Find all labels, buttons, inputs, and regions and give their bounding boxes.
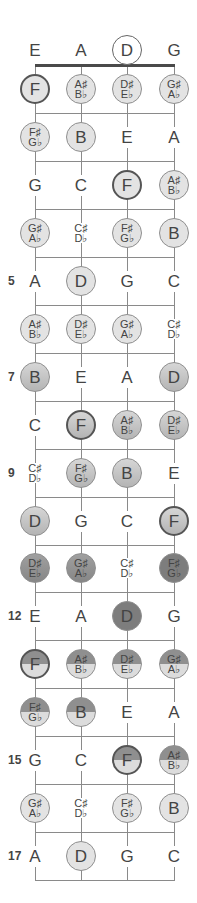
note-marker: A♯B♭ [112,410,142,440]
flat-name: E♭ [29,568,41,578]
note-name-enharmonic: F♯G♭ [28,702,42,722]
note-name: F [76,415,86,436]
note-marker: D [66,841,96,871]
fret-line [35,209,175,210]
note-name: E [29,40,40,61]
note-label: G [66,506,96,536]
note-name: C [121,511,133,532]
fret-number: 5 [8,274,15,288]
note-name: B [168,223,179,244]
note-label: A [66,35,96,65]
note-name: G [167,40,180,61]
nut-line [35,64,175,67]
note-name: C [75,750,87,771]
fret-line [35,305,175,306]
note-name-enharmonic: C♯D♭ [28,463,41,483]
note-name: C [168,846,180,867]
note-name: D [121,606,133,627]
flat-name: E♭ [168,425,180,435]
flat-name: G♭ [74,473,88,483]
note-name: A [121,367,132,388]
note-name: C [168,271,180,292]
note-label: A [66,601,96,631]
note-name: E [121,127,132,148]
note-marker: D [112,601,142,631]
note-name: A [29,271,40,292]
note-marker: G♯A♭ [159,649,189,679]
flat-name: A♭ [29,233,41,243]
note-label: G [159,601,189,631]
note-name-enharmonic: C♯D♭ [167,319,180,339]
note-marker: F [112,170,142,200]
note-label: A [20,266,50,296]
note-label: G [20,170,50,200]
note-marker: D♯E♭ [159,410,189,440]
flat-name: A♭ [168,664,180,674]
note-marker: G♯A♭ [112,314,142,344]
fret-number: 15 [8,753,21,767]
fret-line [35,832,175,833]
flat-name: A♭ [121,329,133,339]
fret-line [35,545,175,546]
note-label: C [20,410,50,440]
note-name-enharmonic: D♯E♭ [167,415,180,435]
note-marker: F [159,506,189,536]
note-marker: F♯G♭ [20,697,50,727]
fret-number: 12 [8,609,21,623]
note-marker: B [159,793,189,823]
note-name: A [168,127,179,148]
note-name-enharmonic: G♯A♭ [120,319,134,339]
fret-line [35,592,175,593]
note-label: C [159,266,189,296]
note-name: B [168,798,179,819]
note-marker: F♯G♭ [159,553,189,583]
note-name-enharmonic: G♯A♭ [167,654,181,674]
flat-name: E♭ [75,329,87,339]
note-marker: G♯A♭ [66,553,96,583]
note-name-enharmonic: A♯B♭ [121,415,134,435]
fret-number: 17 [8,849,21,863]
note-name-enharmonic: D♯E♭ [120,654,133,674]
note-name-enharmonic: C♯D♭ [74,798,87,818]
flat-name: B♭ [121,425,133,435]
note-marker: B [20,362,50,392]
note-label: C [159,841,189,871]
note-marker: A♯B♭ [66,74,96,104]
note-name: E [121,702,132,723]
note-name: C [75,175,87,196]
fret-line [35,736,175,737]
note-name-enharmonic: F♯G♭ [28,127,42,147]
note-marker: F♯G♭ [112,793,142,823]
note-name: F [30,654,40,675]
note-marker: F♯G♭ [66,458,96,488]
note-name: F [169,511,179,532]
note-name: F [122,175,132,196]
note-name: F [122,750,132,771]
note-name-enharmonic: D♯E♭ [120,79,133,99]
note-name-enharmonic: F♯G♭ [120,223,134,243]
note-name: G [74,511,87,532]
note-marker: D [159,362,189,392]
note-marker: A♯B♭ [66,649,96,679]
note-marker: D♯E♭ [112,74,142,104]
fret-line [35,688,175,689]
note-marker: F♯G♭ [112,218,142,248]
flat-name: A♭ [29,808,41,818]
note-marker: B [112,458,142,488]
fret-number: 7 [8,370,15,384]
note-marker: D [66,266,96,296]
fret-line [35,401,175,402]
flat-name: A♭ [75,568,87,578]
note-name-enharmonic: F♯G♭ [74,463,88,483]
fret-line [35,784,175,785]
note-name-enharmonic: A♯B♭ [168,750,181,770]
note-label: G [112,841,142,871]
fretboard-diagram: EADGFA♯B♭D♯E♭G♯A♭F♯G♭BEAGCFA♯B♭G♯A♭C♯D♭F… [0,0,197,903]
note-name-enharmonic: G♯A♭ [74,558,88,578]
note-name: D [121,40,133,61]
note-marker: D [112,35,142,65]
note-name-enharmonic: C♯D♭ [120,558,133,578]
flat-name: D♭ [75,233,88,243]
flat-name: D♭ [75,808,88,818]
note-label: C [66,170,96,200]
